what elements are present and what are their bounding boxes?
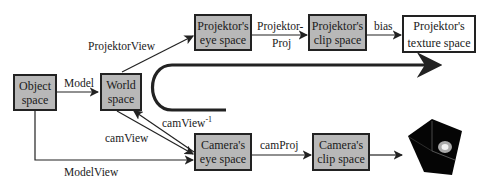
edge-label-modelview: ModelView bbox=[64, 166, 118, 179]
node-label: Object bbox=[19, 79, 51, 93]
edge-label-projektor-proj-1: Projektor- bbox=[257, 20, 303, 33]
edge-label-projektor-proj-2: Proj bbox=[272, 37, 291, 50]
node-label: eye space bbox=[200, 33, 246, 47]
node-projektor-eye-space: Projektor's eye space bbox=[194, 14, 252, 51]
node-object-space: Object space bbox=[13, 74, 57, 111]
node-camera-eye-space: Camera's eye space bbox=[194, 133, 252, 171]
edge-label-camview-inverse: camView-1 bbox=[162, 113, 212, 130]
node-label: Projektor's bbox=[312, 19, 364, 33]
node-label: space bbox=[108, 92, 135, 106]
node-label: space bbox=[22, 93, 49, 107]
edge-label-camproj: camProj bbox=[260, 139, 298, 152]
rendered-cube-icon bbox=[408, 119, 462, 175]
camview-inverse-text: camView bbox=[162, 117, 205, 129]
node-label: Projektor's bbox=[413, 19, 465, 33]
node-label: Camera's bbox=[201, 138, 245, 152]
node-label: eye space bbox=[200, 152, 246, 166]
camview-inverse-exponent: -1 bbox=[205, 115, 212, 124]
edge-label-bias: bias bbox=[374, 20, 393, 33]
node-label: clip space bbox=[317, 152, 365, 166]
node-label: clip space bbox=[314, 33, 362, 47]
big-loop-arrow bbox=[153, 65, 437, 110]
edge-label-model: Model bbox=[64, 77, 94, 90]
node-label: World bbox=[106, 78, 136, 92]
node-camera-clip-space: Camera's clip space bbox=[312, 133, 370, 171]
edge-label-camview: camView bbox=[105, 132, 148, 145]
node-label: Projektor's bbox=[197, 19, 249, 33]
node-projektor-texture-space: Projektor's texture space bbox=[402, 15, 476, 53]
node-world-space: World space bbox=[100, 73, 142, 111]
node-projektor-clip-space: Projektor's clip space bbox=[308, 14, 367, 51]
node-label: Camera's bbox=[319, 138, 363, 152]
node-label: texture space bbox=[408, 36, 471, 50]
edge-label-projektor-view: ProjektorView bbox=[88, 40, 155, 53]
